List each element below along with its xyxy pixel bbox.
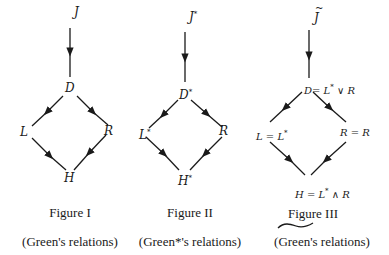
node-l: L — [20, 126, 28, 138]
node-r: R — [104, 125, 113, 137]
figure-2-subtitle: (Green*'s relations) — [139, 235, 241, 249]
figure-1-title: Figure I — [49, 206, 91, 220]
tilde-mark — [278, 223, 313, 228]
meet-r: ∧ R — [329, 189, 350, 200]
l-equals-l: L = L — [256, 131, 284, 142]
arrow-d-to-l — [285, 92, 302, 108]
node-l-letter: L — [139, 128, 147, 142]
node-r: R — [219, 125, 228, 137]
node-d: D — [65, 82, 75, 94]
star-superscript: * — [194, 10, 198, 18]
star-superscript: * — [284, 129, 288, 137]
node-d-letter: D — [304, 85, 312, 96]
node-j: J — [74, 6, 79, 18]
arrow-l-to-h — [32, 138, 50, 156]
node-d-expression: D= L* ∨ R — [304, 82, 355, 96]
star-superscript: * — [147, 128, 151, 136]
arrow-r-to-h — [205, 137, 222, 154]
h-equals-l: H = L — [295, 189, 325, 200]
node-j-star: J* — [189, 8, 197, 23]
node-h-expression: H = L* ∧ R — [295, 186, 350, 200]
node-d-star: D* — [179, 86, 192, 101]
node-h: H — [64, 172, 74, 184]
figure-1-subtitle: (Green's relations) — [22, 235, 118, 249]
figure-3-subtitle: (Green's relations) — [274, 235, 370, 249]
node-l-star: L* — [139, 126, 150, 141]
arrow-d-to-r — [77, 96, 93, 112]
figure-2-title: Figure II — [167, 206, 213, 220]
node-h-letter: H — [178, 174, 188, 188]
join-r: ∨ R — [334, 85, 355, 96]
arrow-r-to-h — [326, 142, 346, 160]
arrow-l-to-h — [270, 142, 290, 160]
figure-1-arrows — [32, 28, 108, 170]
node-r-expression: R = R — [340, 128, 370, 138]
node-j-tilde: J — [314, 12, 319, 24]
arrow-d-to-r — [191, 100, 207, 114]
star-superscript: * — [188, 174, 192, 182]
star-superscript: * — [189, 88, 193, 96]
figure-3-title: Figure III — [288, 207, 338, 221]
node-d-letter: D — [179, 88, 189, 102]
node-l-expression: L = L* — [256, 128, 288, 142]
arrow-d-to-l — [47, 96, 63, 112]
arrow-d-to-l — [163, 100, 178, 115]
node-h-star: H* — [178, 172, 192, 187]
equals-l: = L — [312, 85, 330, 96]
